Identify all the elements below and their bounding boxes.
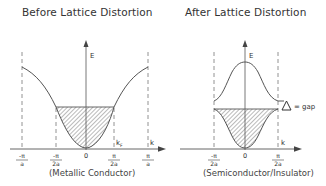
tick-den: 2a xyxy=(274,160,282,167)
right-k-label: k xyxy=(281,139,286,147)
tick-num: -π xyxy=(211,152,217,159)
upper-band-curve xyxy=(214,62,284,101)
tick-den: 2a xyxy=(110,160,118,167)
tick-num: π xyxy=(276,152,280,159)
tick-num: -π xyxy=(19,152,25,159)
k-axis-arrow-icon xyxy=(158,146,166,151)
delta-gap-icon xyxy=(282,101,291,110)
tick-zero: 0 xyxy=(84,152,88,160)
tick-den: a xyxy=(146,160,150,167)
band-diagram: E k k F E k = gap -π a -π 2a 0 π 2a π a … xyxy=(0,0,326,186)
fermi-k-subscript: F xyxy=(120,143,123,148)
right-e-label: E xyxy=(249,52,253,60)
right-tick-labels: -π 2a 0 π 2a xyxy=(208,152,284,167)
lower-band-filled xyxy=(214,109,278,148)
tick-zero: 0 xyxy=(243,152,247,160)
left-e-label: E xyxy=(90,52,94,60)
k-axis-arrow-icon xyxy=(294,146,302,151)
tick-num: π xyxy=(146,152,150,159)
right-caption: (Semiconductor/Insulator) xyxy=(203,168,314,178)
filled-states xyxy=(56,107,114,148)
right-diagram xyxy=(180,40,302,152)
gap-label: = gap xyxy=(294,103,316,111)
tick-den: 2a xyxy=(210,160,218,167)
tick-den: 2a xyxy=(52,160,60,167)
left-k-label: k xyxy=(150,139,155,147)
left-diagram xyxy=(10,40,166,152)
left-tick-labels: -π a -π 2a 0 π 2a π a xyxy=(16,152,154,167)
left-caption: (Metallic Conductor) xyxy=(49,168,135,178)
tick-num: π xyxy=(112,152,116,159)
tick-den: a xyxy=(20,160,24,167)
tick-num: -π xyxy=(53,152,59,159)
e-axis-arrow-icon xyxy=(84,40,89,47)
e-axis-arrow-icon xyxy=(243,40,248,47)
